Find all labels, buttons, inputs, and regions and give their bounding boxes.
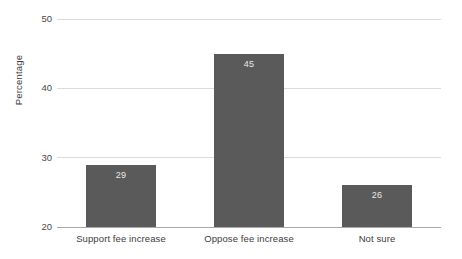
bar-value-label: 29 <box>86 170 156 180</box>
bar[interactable]: 26 <box>342 185 412 227</box>
x-axis-category-label: Not sure <box>313 233 441 244</box>
y-axis-title: Percentage <box>13 35 24 125</box>
plot-area: 294526 <box>57 19 441 227</box>
x-axis-category-label: Oppose fee increase <box>185 233 313 244</box>
bar-chart: Percentage 20304050 294526 Support fee i… <box>0 0 462 259</box>
bar-value-label: 45 <box>214 59 284 69</box>
y-tick-label-20: 20 <box>26 222 52 232</box>
bar-value-label: 26 <box>342 190 412 200</box>
y-tick-label-30: 30 <box>26 153 52 163</box>
bar[interactable]: 45 <box>214 54 284 227</box>
y-tick-label-50: 50 <box>26 14 52 24</box>
bar[interactable]: 29 <box>86 165 156 227</box>
x-axis-category-label: Support fee increase <box>57 233 185 244</box>
y-tick-label-40: 40 <box>26 83 52 93</box>
